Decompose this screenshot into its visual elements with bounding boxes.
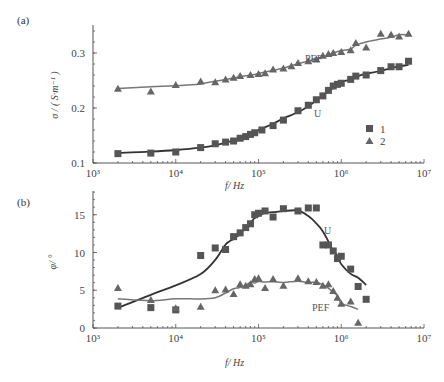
fit-line-pef	[118, 35, 409, 89]
square-marker-icon	[114, 150, 121, 157]
x-tick-label: 10⁵	[251, 332, 266, 344]
x-tick-label: 10⁴	[168, 167, 183, 179]
square-marker-icon	[363, 296, 370, 303]
triangle-marker-icon	[230, 290, 238, 297]
triangle-marker-icon	[352, 39, 360, 46]
square-marker-icon	[338, 80, 345, 87]
triangle-marker-icon	[294, 274, 302, 281]
x-tick-label: 10³	[86, 167, 101, 179]
x-tick-label: 10³	[86, 332, 101, 344]
triangle-marker-icon	[347, 298, 355, 305]
legend-triangle-marker-icon	[366, 137, 374, 144]
triangle-marker-icon	[387, 31, 395, 38]
x-tick-label: 10⁶	[334, 167, 349, 179]
x-tick-label: 10⁴	[168, 332, 183, 344]
square-marker-icon	[352, 73, 359, 80]
square-marker-icon	[363, 72, 370, 79]
square-marker-icon	[294, 107, 301, 114]
x-tick-label: 10⁶	[334, 332, 349, 344]
y-tick-label: 0.3	[71, 47, 85, 59]
square-marker-icon	[270, 122, 277, 129]
square-marker-icon	[251, 129, 258, 136]
triangle-marker-icon	[362, 44, 370, 51]
panel-a-axes: 10³10⁴10⁵10⁶10⁷0.10.20.3	[71, 25, 431, 179]
panel-b-label: (b)	[17, 196, 30, 209]
legend: 1 2	[366, 123, 386, 147]
triangle-marker-icon	[236, 280, 244, 287]
square-marker-icon	[396, 63, 403, 70]
square-marker-icon	[147, 304, 154, 311]
square-marker-icon	[294, 207, 301, 214]
chart-figure: (a) σ / ( S·m⁻¹ ) 10³10⁴10⁵10⁶10⁷0.10.20…	[0, 0, 444, 382]
triangle-marker-icon	[197, 78, 205, 85]
square-marker-icon	[230, 138, 237, 145]
square-marker-icon	[172, 149, 179, 156]
square-marker-icon	[262, 207, 269, 214]
panel-b-phase-angle-chart: (b) φ/ ° 10³10⁴10⁵10⁶10⁷051015 U PEF f/ …	[17, 191, 432, 368]
triangle-marker-icon	[211, 286, 219, 293]
square-marker-icon	[313, 96, 320, 103]
triangle-marker-icon	[147, 296, 155, 303]
square-marker-icon	[255, 210, 262, 217]
square-marker-icon	[270, 214, 277, 221]
square-marker-icon	[330, 247, 337, 254]
legend-label-1: 1	[380, 123, 386, 135]
square-marker-icon	[197, 252, 204, 259]
square-marker-icon	[197, 144, 204, 151]
square-marker-icon	[147, 150, 154, 157]
triangle-marker-icon	[377, 30, 385, 37]
triangle-marker-icon	[333, 294, 341, 301]
square-marker-icon	[280, 205, 287, 212]
square-marker-icon	[355, 283, 362, 290]
y-tick-label: 0.2	[71, 102, 85, 114]
triangle-marker-icon	[172, 81, 180, 88]
legend-label-2: 2	[380, 135, 386, 147]
x-tick-label: 10⁷	[417, 332, 432, 344]
square-marker-icon	[313, 204, 320, 211]
square-marker-icon	[388, 63, 395, 70]
square-marker-icon	[212, 140, 219, 147]
panel-a-x-axis-title: f/ Hz	[225, 180, 244, 191]
y-tick-label: 10	[74, 247, 86, 259]
triangle-marker-icon	[324, 280, 332, 287]
panel-a-fit-lines	[118, 35, 409, 153]
triangle-marker-icon	[304, 277, 312, 284]
square-marker-icon	[114, 303, 121, 310]
square-marker-icon	[305, 204, 312, 211]
triangle-marker-icon	[222, 285, 230, 292]
panel-b-u-curve-label: U	[324, 225, 332, 236]
square-marker-icon	[405, 58, 412, 65]
panel-a-y-axis-title: σ / ( S·m⁻¹ )	[49, 71, 61, 119]
square-marker-icon	[377, 67, 384, 74]
square-marker-icon	[222, 246, 229, 253]
panel-a-conductivity-chart: (a) σ / ( S·m⁻¹ ) 10³10⁴10⁵10⁶10⁷0.10.20…	[17, 14, 432, 191]
panel-b-y-axis-title: φ/ °	[47, 255, 58, 270]
square-marker-icon	[222, 139, 229, 146]
square-marker-icon	[305, 102, 312, 109]
triangle-marker-icon	[405, 30, 413, 37]
panel-a-data-points	[114, 30, 413, 157]
x-tick-label: 10⁵	[251, 167, 266, 179]
square-marker-icon	[230, 233, 237, 240]
triangle-marker-icon	[261, 284, 269, 291]
y-tick-label: 5	[80, 284, 86, 296]
triangle-marker-icon	[312, 278, 320, 285]
triangle-marker-icon	[114, 284, 122, 291]
square-marker-icon	[280, 117, 287, 124]
y-tick-label: 15	[74, 209, 86, 221]
triangle-marker-icon	[197, 303, 205, 310]
panel-a-label: (a)	[17, 14, 30, 27]
panel-a-pef-curve-label: PEF	[305, 53, 323, 64]
square-marker-icon	[247, 220, 254, 227]
square-marker-icon	[212, 244, 219, 251]
square-marker-icon	[338, 253, 345, 260]
triangle-marker-icon	[354, 319, 362, 326]
triangle-marker-icon	[269, 275, 277, 282]
y-tick-label: 0	[80, 322, 86, 334]
square-marker-icon	[347, 266, 354, 273]
x-tick-label: 10⁷	[417, 167, 432, 179]
panel-b-x-axis-title: f/ Hz	[225, 357, 244, 368]
panel-b-pef-curve-label: PEF	[312, 302, 330, 313]
triangle-marker-icon	[337, 300, 345, 307]
panel-a-u-curve-label: U	[314, 108, 322, 119]
